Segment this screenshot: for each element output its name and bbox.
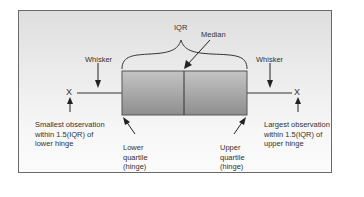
whisker-left-arrow-icon (95, 80, 101, 88)
upper-quartile-label: Upper quartile (hinge) (220, 143, 245, 172)
whisker-left-label: Whisker (85, 55, 112, 65)
median-label: Median (201, 30, 226, 40)
smallest-observation-label: Smallest observation within 1.5(IQR) of … (35, 120, 105, 149)
outlier-left-marker: X (66, 87, 72, 97)
lower-quartile-arrow-icon (123, 117, 130, 125)
largest-observation-label: Largest observation within 1.5(IQR) of u… (264, 120, 330, 149)
largest-arrow-icon (295, 97, 301, 104)
smallest-arrow-icon (67, 97, 73, 104)
lower-quartile-label: Lower quartile (hinge) (123, 143, 148, 172)
whisker-right-arrow-icon (267, 80, 273, 88)
whisker-right-label: Whisker (256, 55, 283, 65)
iqr-label: IQR (174, 23, 187, 33)
outlier-right-marker: X (294, 87, 300, 97)
upper-quartile-arrow-icon (239, 117, 246, 125)
iqr-brace (122, 40, 247, 69)
